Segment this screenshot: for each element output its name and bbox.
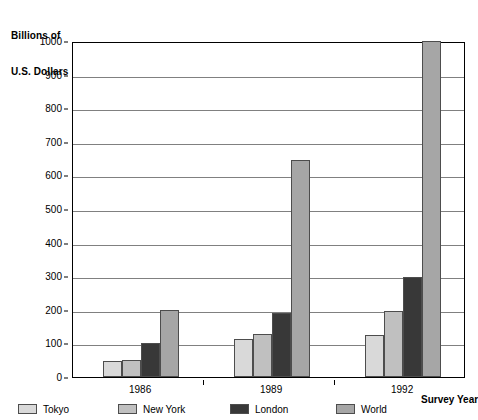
legend-item-world[interactable]: World <box>336 404 387 415</box>
x-tick-label-1992: 1992 <box>391 384 413 395</box>
bar-london-1986[interactable] <box>141 343 160 377</box>
legend-item-tokyo[interactable]: Tokyo <box>18 404 69 415</box>
y-tick-label-700: 700 <box>45 138 62 148</box>
bar-group-1986 <box>103 43 179 377</box>
bar-new-york-1986[interactable] <box>122 360 141 377</box>
bar-group-1992 <box>365 43 441 377</box>
y-tick-mark-300 <box>64 277 68 278</box>
bar-tokyo-1989[interactable] <box>234 339 253 377</box>
y-axis-tick-labels: 01002003004005006007008009001000 <box>0 42 68 378</box>
y-tick-label-800: 800 <box>45 104 62 114</box>
y-tick-label-400: 400 <box>45 239 62 249</box>
y-tick-mark-700 <box>64 142 68 143</box>
bar-world-1986[interactable] <box>160 310 179 377</box>
bar-world-1989[interactable] <box>291 160 310 377</box>
bar-world-1992[interactable] <box>422 41 441 377</box>
y-tick-mark-500 <box>64 210 68 211</box>
x-axis-tick-labels: 198619891992 <box>72 380 465 398</box>
y-tick-mark-600 <box>64 176 68 177</box>
legend-swatch-icon-world <box>336 404 355 414</box>
y-tick-mark-200 <box>64 310 68 311</box>
y-tick-label-600: 600 <box>45 171 62 181</box>
legend-label: New York <box>143 404 185 415</box>
y-tick-label-0: 0 <box>56 373 62 383</box>
plot-area <box>72 42 465 378</box>
legend-swatch-icon-tokyo <box>18 404 37 414</box>
x-tick-label-1986: 1986 <box>129 384 151 395</box>
x-tick-mark-2 <box>334 380 335 385</box>
y-tick-label-1000: 1000 <box>40 37 62 47</box>
legend-item-london[interactable]: London <box>230 404 288 415</box>
legend-label: London <box>255 404 288 415</box>
legend-item-new-york[interactable]: New York <box>118 404 185 415</box>
x-axis-title: Survey Year <box>421 394 478 406</box>
y-tick-mark-900 <box>64 75 68 76</box>
y-tick-label-200: 200 <box>45 306 62 316</box>
bar-new-york-1992[interactable] <box>384 311 403 377</box>
legend-swatch-icon-new-york <box>118 404 137 414</box>
bar-tokyo-1992[interactable] <box>365 335 384 377</box>
y-tick-mark-1000 <box>64 42 68 43</box>
bars-layer <box>73 43 464 377</box>
bar-group-1989 <box>234 43 310 377</box>
y-tick-label-500: 500 <box>45 205 62 215</box>
legend-swatch-icon-london <box>230 404 249 414</box>
legend-label: World <box>361 404 387 415</box>
x-tick-mark-1 <box>203 380 204 385</box>
x-tick-label-1989: 1989 <box>260 384 282 395</box>
y-tick-label-100: 100 <box>45 339 62 349</box>
bar-london-1992[interactable] <box>403 277 422 377</box>
y-tick-label-900: 900 <box>45 71 62 81</box>
bar-tokyo-1986[interactable] <box>103 361 122 377</box>
bar-new-york-1989[interactable] <box>253 334 272 377</box>
legend-label: Tokyo <box>43 404 69 415</box>
bar-london-1989[interactable] <box>272 313 291 377</box>
y-tick-mark-100 <box>64 344 68 345</box>
y-tick-mark-800 <box>64 109 68 110</box>
y-tick-mark-0 <box>64 378 68 379</box>
y-tick-label-300: 300 <box>45 272 62 282</box>
y-tick-mark-400 <box>64 243 68 244</box>
